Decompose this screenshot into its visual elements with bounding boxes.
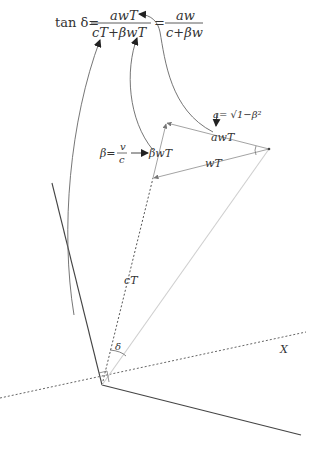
light-ray (102, 149, 269, 385)
formula-frac1-num: awT (110, 8, 139, 23)
awT-label: awT (211, 131, 236, 144)
x-axis-label: X (279, 343, 289, 356)
apex-angle-arc (255, 146, 256, 155)
cT-to-formula-arrow (68, 40, 100, 315)
wT-label: wT (205, 157, 223, 170)
apex-point (268, 148, 271, 151)
betawT-to-formula-arrow (130, 38, 153, 150)
cT-label: cT (124, 274, 139, 287)
beta-def-den: c (119, 154, 125, 165)
a-definition: a= √1−β² (213, 109, 261, 120)
x-axis-dashed (0, 332, 306, 398)
ct-axis (52, 183, 102, 385)
relativity-diagram: tan δ= awT cT+βwT = aw c+βw a= √1−β² β= … (0, 0, 324, 461)
formula-equals: = (154, 15, 165, 30)
beta-def-lhs: β= (99, 147, 116, 160)
beta-def-num: v (120, 141, 126, 152)
formula-frac2-num: aw (176, 8, 195, 23)
formula-frac2-den: c+βw (166, 25, 203, 40)
delta-label: δ (115, 341, 121, 352)
lower-axis (102, 385, 301, 435)
beta-wT-label: βwT (148, 147, 174, 160)
formula-frac1-den: cT+βwT (92, 25, 147, 40)
